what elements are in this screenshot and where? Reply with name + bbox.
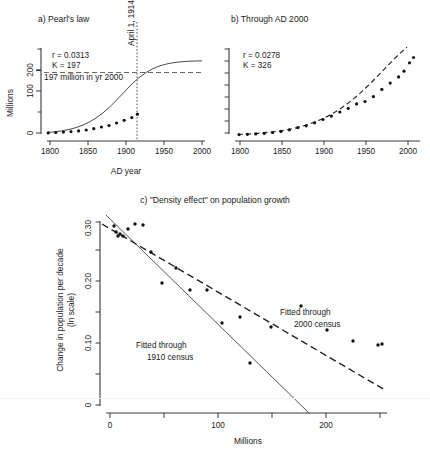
panel-c-fit-2000-line <box>102 224 385 390</box>
panel-b-xticklabel-1850: 1850 <box>273 147 292 156</box>
panel-b: b) Through AD 2000 1800 1850 1900 1950 2… <box>225 14 421 156</box>
panel-a-xticklabel-1850: 1850 <box>79 147 98 156</box>
panel-a-yticklabel-0: 0 <box>26 130 35 135</box>
panel-c-xticklabel-0: 0 <box>108 421 113 430</box>
panel-a-xticklabel-2000: 2000 <box>193 147 212 156</box>
figure-panel-container: a) Pearl's law Millions 0 100 200 1800 1… <box>0 0 430 462</box>
panel-a-xticklabel-1950: 1950 <box>155 147 174 156</box>
panel-c-label-1910-line1: Fitted through <box>136 341 187 350</box>
panel-b-xticklabel-2000: 2000 <box>399 147 418 156</box>
panel-a-xticklabel-1800: 1800 <box>41 147 60 156</box>
panel-c-xlabel: Millions <box>234 436 262 446</box>
panel-c: c) "Density effect" on population growth… <box>55 195 387 446</box>
panel-c-xticklabel-100: 100 <box>211 421 225 430</box>
panel-c-xticklabel-200: 200 <box>319 421 333 430</box>
figure-svg: a) Pearl's law Millions 0 100 200 1800 1… <box>0 0 430 462</box>
panel-b-xticklabel-1900: 1900 <box>315 147 334 156</box>
panel-a-annotation-k: K = 197 <box>52 61 81 70</box>
panel-c-label-2000-line2: 2000 census <box>294 320 340 329</box>
panel-a: a) Pearl's law Millions 0 100 200 1800 1… <box>5 0 212 156</box>
panel-a-yticklabel-100: 100 <box>26 84 35 98</box>
panel-c-yticklabel-010: 0.10 <box>84 335 93 351</box>
panel-a-xticklabel-1900: 1900 <box>117 147 136 156</box>
panel-a-annotation-r: r = 0.0313 <box>52 51 90 60</box>
panel-c-label-2000-line1: Fitted through <box>280 308 331 317</box>
panel-b-xticklabel-1800: 1800 <box>231 147 250 156</box>
panel-b-annotation-r: r = 0.0278 <box>243 51 281 60</box>
panel-c-ylabel-line2: (ln scale) <box>66 293 76 327</box>
panel-b-xticklabel-1950: 1950 <box>357 147 376 156</box>
panel-c-yticklabel-030: 0.30 <box>84 220 93 236</box>
shared-xlabel-ad-year: AD year <box>111 166 141 176</box>
panel-a-yticklabel-200: 200 <box>26 63 35 77</box>
panel-c-yticklabel-020: 0.20 <box>84 273 93 289</box>
panel-a-vline-label: April 1, 1914 <box>127 0 136 46</box>
panel-b-y-ticks <box>225 49 230 133</box>
panel-c-y-ticks <box>96 222 101 405</box>
panel-c-title: c) "Density effect" on population growth <box>140 195 290 205</box>
panel-a-ylabel: Millions <box>5 89 15 117</box>
panel-c-ylabel-line1: Change in population per decade <box>55 248 65 372</box>
panel-b-title: b) Through AD 2000 <box>231 14 308 24</box>
panel-c-yticklabel-0: 0 <box>84 402 93 407</box>
panel-c-label-1910-line2: 1910 census <box>147 353 193 362</box>
panel-b-annotation-k: K = 326 <box>243 61 272 70</box>
page-hairline-divider <box>0 398 430 399</box>
panel-a-title: a) Pearl's law <box>38 14 90 24</box>
panel-a-annotation-note: 197 million in yr 2000 <box>44 72 123 82</box>
